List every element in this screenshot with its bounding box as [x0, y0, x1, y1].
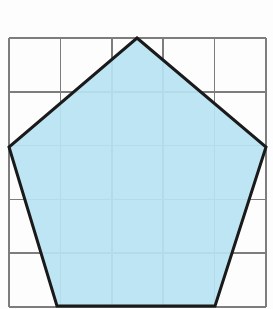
figure-canvas [0, 0, 273, 309]
pentagon-grid-figure [0, 0, 273, 309]
